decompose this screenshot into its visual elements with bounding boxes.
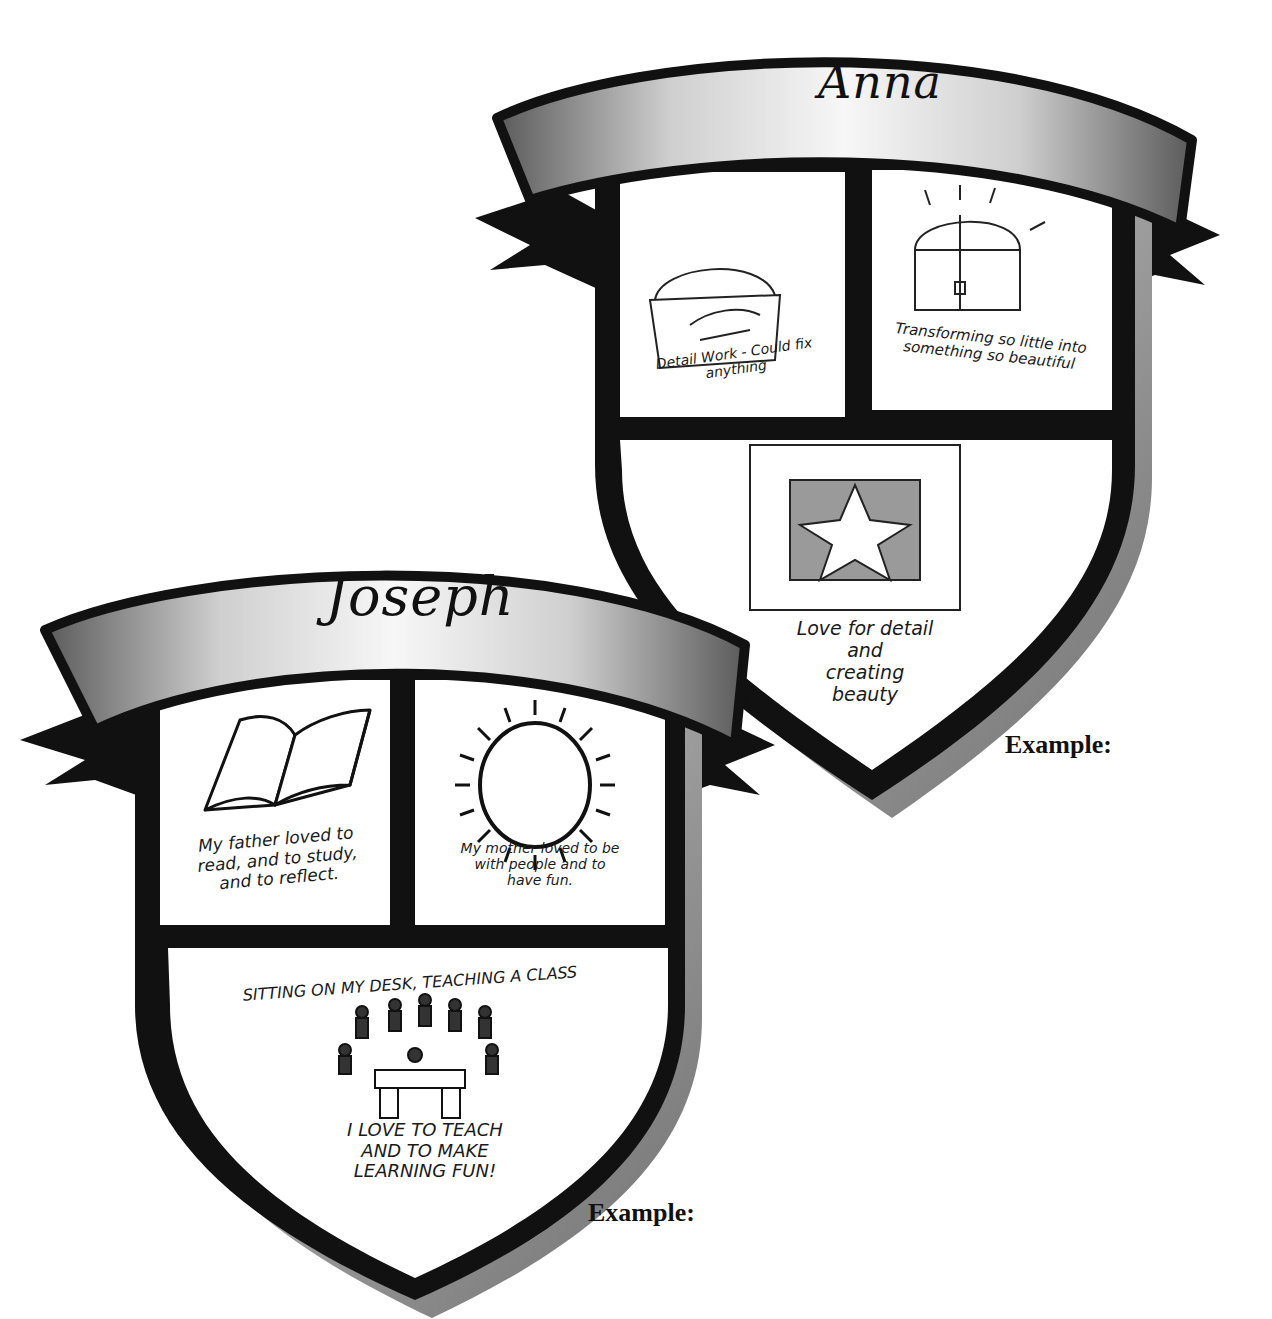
crest-joseph-graphic [0,0,1272,1319]
crest-joseph: Joseph My father loved to read, and to s… [0,0,1272,1319]
example-label-joseph: Example: [588,1198,695,1228]
banner-name-joseph: Joseph [300,565,540,628]
caption-joseph-top-right: My mother loved to be with people and to… [425,840,655,888]
crest-worksheet: Anna Detail Work - Could fix anything Tr… [0,0,1272,1319]
caption-joseph-bottom: I LOVE TO TEACH AND TO MAKE LEARNING FUN… [310,1120,540,1182]
